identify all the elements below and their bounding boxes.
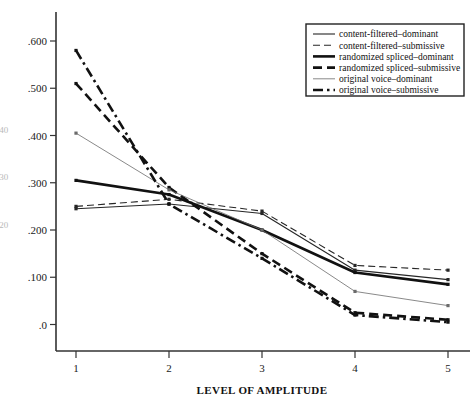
data-point-marker <box>167 198 170 201</box>
data-point-marker <box>74 205 77 208</box>
y-axis-tick-label: .0 <box>39 319 48 331</box>
legend-label-1: content-filtered–submissive <box>339 41 445 51</box>
legend-label-0: content-filtered–dominant <box>339 29 439 39</box>
data-point-marker <box>353 290 356 293</box>
legend-label-5: original voice–submissive <box>339 85 438 95</box>
edge-artifact-text: .20 <box>0 220 9 230</box>
data-point-marker <box>446 304 449 307</box>
data-point-marker <box>167 202 170 205</box>
series-line-0 <box>76 204 448 280</box>
y-axis-tick-label: .100 <box>28 271 48 283</box>
y-axis-tick-label: .500 <box>28 82 48 94</box>
data-point-marker <box>260 210 263 213</box>
x-axis-title: LEVEL OF AMPLITUDE <box>197 384 328 396</box>
data-point-marker <box>74 132 77 135</box>
x-axis-tick-label: 5 <box>445 362 451 374</box>
data-point-marker <box>260 252 263 255</box>
legend-label-4: original voice–dominant <box>339 74 432 84</box>
data-point-marker <box>353 313 356 316</box>
chart-canvas: .0.100.200.300.400.500.60012345LEVEL OF … <box>0 0 475 411</box>
data-point-marker <box>74 49 77 52</box>
data-point-marker <box>446 269 449 272</box>
data-point-marker <box>74 82 77 85</box>
data-point-marker <box>260 257 263 260</box>
edge-artifact-text: .30 <box>0 172 9 182</box>
data-point-marker <box>353 271 356 274</box>
y-axis-tick-label: .400 <box>28 130 48 142</box>
cropped-edge-text: .40.30.20 <box>0 125 9 230</box>
line-chart: .0.100.200.300.400.500.60012345LEVEL OF … <box>0 0 475 411</box>
data-point-marker <box>167 188 170 191</box>
data-point-marker <box>446 321 449 324</box>
x-axis-tick-label: 1 <box>73 362 79 374</box>
data-point-marker <box>167 193 170 196</box>
series-line-2 <box>76 180 448 284</box>
x-axis-tick-label: 4 <box>352 362 358 374</box>
data-point-marker <box>74 179 77 182</box>
legend-label-2: randomized spliced–dominant <box>339 52 454 62</box>
data-point-marker <box>260 228 263 231</box>
legend-label-3: randomized spliced–submissive <box>339 63 460 73</box>
edge-artifact-text: .40 <box>0 125 9 135</box>
y-axis-tick-label: .300 <box>28 177 48 189</box>
data-point-marker <box>353 264 356 267</box>
y-axis-tick-label: .600 <box>28 35 48 47</box>
data-point-marker <box>446 283 449 286</box>
series-line-4 <box>76 133 448 305</box>
x-axis-tick-label: 3 <box>259 362 265 374</box>
data-point-marker <box>446 278 449 281</box>
chart-legend: content-filtered–dominantcontent-filtere… <box>306 24 464 96</box>
x-axis-tick-label: 2 <box>166 362 172 374</box>
y-axis-tick-label: .200 <box>28 224 48 236</box>
